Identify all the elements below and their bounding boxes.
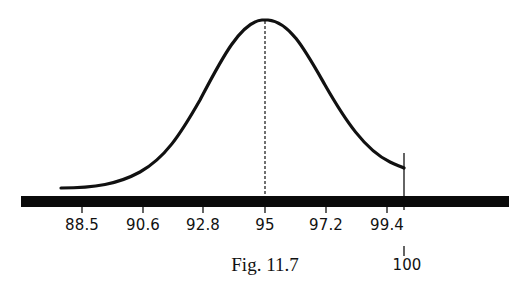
- normal-curve: [61, 20, 404, 188]
- tick-label: 90.6: [126, 216, 160, 234]
- figure: 88.5 90.6 92.8 95 97.2 99.4 100 Fig. 11.…: [0, 0, 529, 305]
- tick-label: 88.5: [65, 216, 99, 234]
- x-axis: [21, 196, 509, 207]
- tick-label: 92.8: [186, 216, 220, 234]
- tick-label: 99.4: [370, 216, 404, 234]
- figure-caption: Fig. 11.7: [231, 254, 298, 276]
- tick-label: 100: [392, 256, 421, 274]
- tick-label: 97.2: [309, 216, 343, 234]
- tick-label: 95: [255, 216, 275, 234]
